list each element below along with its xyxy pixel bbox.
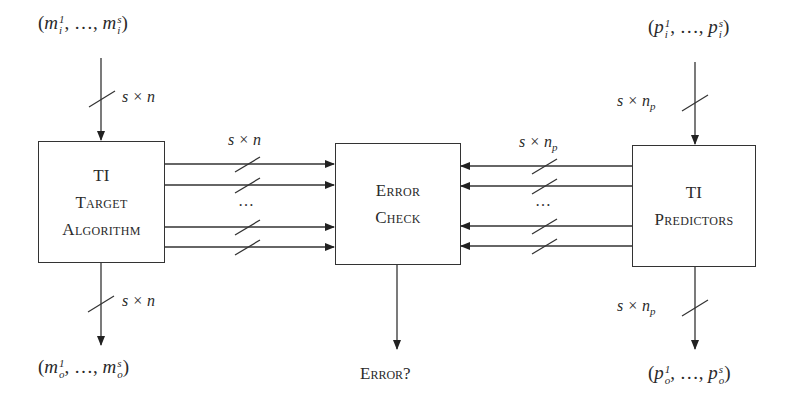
bus-label-target-in: s × n xyxy=(122,88,155,106)
target-output-tuple: (m1o, …, mso) xyxy=(38,356,129,380)
box-subtitle: Algorithm xyxy=(62,216,140,243)
ti-target-algorithm-box: TI Target Algorithm xyxy=(38,141,165,263)
bus-slash xyxy=(89,91,115,107)
bus-label-predictors-in: s × np xyxy=(617,92,656,112)
box-title: TI xyxy=(93,162,110,189)
error-check-box: Error Check xyxy=(335,143,461,265)
error-output-label: Error? xyxy=(360,364,411,384)
bus-label-predictors-to-check: s × np xyxy=(519,133,558,153)
box-subtitle: Predictors xyxy=(655,206,734,233)
predictors-output-tuple: (p1o, …, pso) xyxy=(648,362,731,386)
predictors-input-tuple: (p1i, …, psi) xyxy=(648,16,729,40)
box-title: TI xyxy=(686,179,703,206)
bus-label-target-out: s × n xyxy=(122,292,155,310)
box-title: Error xyxy=(376,177,421,204)
ti-predictors-box: TI Predictors xyxy=(632,145,756,267)
bus-label-target-to-check: s × n xyxy=(228,131,261,149)
box-subtitle: Check xyxy=(375,204,421,231)
ellipsis-right: … xyxy=(535,192,553,210)
bus-label-predictors-out: s × np xyxy=(617,297,656,317)
target-input-tuple: (m1i, …, msi) xyxy=(38,12,128,36)
ellipsis-left: … xyxy=(238,192,256,210)
box-subtitle: Target xyxy=(75,189,127,216)
